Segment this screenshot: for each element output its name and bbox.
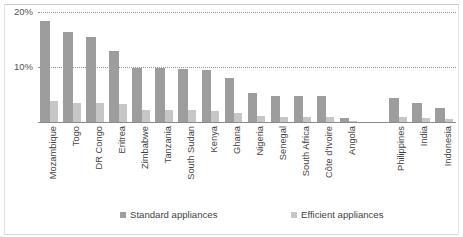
legend-swatch-icon: [120, 212, 126, 218]
bar-group: [153, 12, 176, 122]
y-axis-tick-10pct: 10%: [14, 61, 33, 72]
bar-group: [268, 12, 291, 122]
legend-swatch-icon: [291, 212, 297, 218]
x-axis-label-nigeria: Nigeria: [255, 126, 265, 155]
bar-efficient[interactable]: [165, 110, 173, 122]
bar-standard[interactable]: [271, 96, 281, 122]
bar-efficient[interactable]: [73, 103, 81, 122]
x-axis-label-south-africa: South Africa: [301, 126, 311, 176]
bar-group: [387, 12, 410, 122]
bar-standard[interactable]: [317, 96, 327, 122]
bar-standard[interactable]: [389, 98, 399, 122]
bar-efficient[interactable]: [211, 111, 219, 122]
bar-standard[interactable]: [63, 32, 73, 122]
x-axis-label-south-sudan: South Sudan: [186, 126, 196, 180]
legend-item-standard-appliances[interactable]: Standard appliances: [120, 209, 217, 220]
bar-efficient[interactable]: [96, 103, 104, 122]
x-axis-label-senegal: Senegal: [278, 126, 288, 160]
bar-group: [38, 12, 61, 122]
bar-efficient[interactable]: [142, 110, 150, 122]
bar-standard[interactable]: [248, 93, 258, 122]
bar-group: [222, 12, 245, 122]
bar-standard[interactable]: [155, 68, 165, 122]
x-axis-label-eritrea: Eritrea: [117, 126, 127, 153]
bar-efficient[interactable]: [119, 104, 127, 122]
bar-group: [84, 12, 107, 122]
x-axis-label-philippines: Philippines: [396, 126, 406, 171]
chart-legend: Standard appliancesEfficient appliances: [0, 209, 463, 225]
bar-standard[interactable]: [109, 51, 119, 122]
bar-efficient[interactable]: [188, 110, 196, 122]
x-axis-line: [38, 122, 456, 123]
bar-standard[interactable]: [86, 37, 96, 122]
x-axis-label-angola: Angola: [347, 126, 357, 155]
bar-group: [61, 12, 84, 122]
bar-group: [314, 12, 337, 122]
bar-standard[interactable]: [294, 96, 304, 122]
bar-standard[interactable]: [412, 103, 422, 122]
bar-efficient[interactable]: [50, 101, 58, 122]
bar-group: [107, 12, 130, 122]
x-axis-label-dr-congo: DR Congo: [94, 126, 104, 169]
y-axis-tick-labels: 10%20%: [0, 0, 36, 237]
x-axis-label-c-te-d-ivoire: Côte d'Ivoire: [324, 126, 334, 178]
x-axis-label-indonesia: Indonesia: [443, 126, 453, 166]
x-axis-label-india: India: [419, 126, 429, 146]
x-axis-label-ghana: Ghana: [232, 126, 242, 154]
legend-item-efficient-appliances[interactable]: Efficient appliances: [291, 209, 384, 220]
legend-label: Standard appliances: [130, 209, 217, 220]
bar-standard[interactable]: [202, 70, 212, 122]
x-axis-label-tanzania: Tanzania: [163, 126, 173, 163]
bar-group: [410, 12, 433, 122]
legend-label: Efficient appliances: [301, 209, 384, 220]
bar-group: [245, 12, 268, 122]
x-axis-label-zimbabwe: Zimbabwe: [140, 126, 150, 169]
figure-right-border: [458, 4, 459, 235]
bar-group: [130, 12, 153, 122]
figure-top-border: [4, 4, 459, 5]
x-axis-label-mozambique: Mozambique: [48, 126, 58, 179]
bar-chart: 10%20% MozambiqueTogoDR CongoEritreaZimb…: [0, 0, 463, 237]
bar-group: [433, 12, 456, 122]
bar-group: [176, 12, 199, 122]
figure-bottom-border: [4, 234, 459, 235]
bar-group: [337, 12, 360, 122]
bar-standard[interactable]: [40, 21, 50, 122]
x-axis-label-togo: Togo: [71, 126, 81, 146]
bar-group: [199, 12, 222, 122]
bar-group: [291, 12, 314, 122]
plot-area: [38, 12, 456, 122]
bar-standard[interactable]: [178, 69, 188, 122]
bar-standard[interactable]: [132, 68, 142, 122]
y-axis-tick-20pct: 20%: [14, 6, 33, 17]
x-axis-label-kenya: Kenya: [209, 126, 219, 152]
bar-standard[interactable]: [435, 108, 445, 122]
bar-standard[interactable]: [225, 78, 235, 122]
bar-efficient[interactable]: [234, 113, 242, 122]
